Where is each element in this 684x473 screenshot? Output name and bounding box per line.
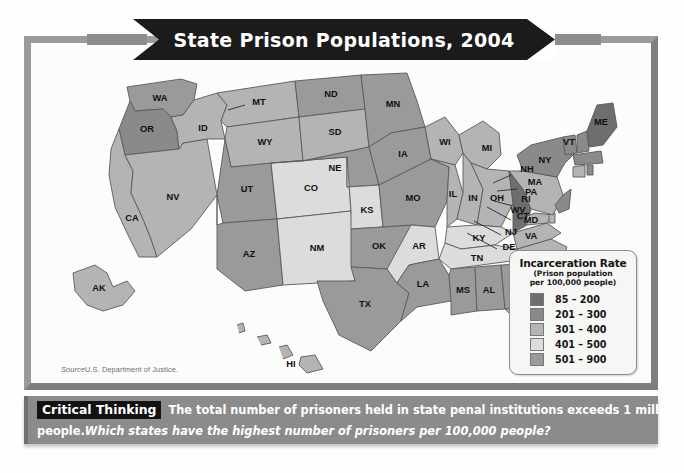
banner-tail-left: [87, 34, 147, 45]
state-label-hi: HI: [286, 359, 295, 369]
page-title: State Prison Populations, 2004: [173, 29, 514, 51]
state-label-nd: ND: [324, 89, 338, 99]
legend-label: 401 – 500: [555, 339, 607, 350]
legend-row: 301 – 400: [517, 322, 629, 337]
state-label-ny: NY: [539, 155, 553, 165]
state-label-az: AZ: [243, 249, 256, 259]
state-label-ne: NE: [329, 163, 342, 173]
source-prefix: Source: [61, 365, 85, 374]
critical-thinking-bar: Critical Thinking The total number of pr…: [24, 396, 658, 444]
state-label-oh: OH: [490, 193, 504, 203]
map-frame: WAORCANVIDMTWYUTCOAZNMNDSDNEKSOKTXMNIAMO…: [24, 36, 658, 390]
state-label-la: LA: [417, 279, 430, 289]
state-label-wy: WY: [258, 137, 274, 147]
state-label-ia: IA: [398, 149, 408, 159]
state-label-in: IN: [468, 193, 478, 203]
state-label-wi: WI: [439, 137, 450, 147]
state-label-ok: OK: [372, 241, 386, 251]
state-label-ks: KS: [361, 205, 374, 215]
state-label-va: VA: [525, 231, 538, 241]
legend-subtitle-line1: (Prison population: [517, 269, 629, 278]
state-label-or: OR: [140, 124, 154, 134]
legend-swatch: [530, 353, 544, 366]
caption-text-line2: people.: [37, 424, 85, 438]
legend-row: 401 – 500: [517, 337, 629, 352]
critical-thinking-badge: Critical Thinking: [37, 401, 161, 419]
state-label-al: AL: [483, 285, 496, 295]
state-label-ca: CA: [125, 213, 139, 223]
banner-body: State Prison Populations, 2004: [133, 19, 555, 60]
caption-line-2: people.Which states have the highest num…: [37, 421, 650, 439]
state-label-ri: RI: [521, 194, 530, 204]
legend-title: Incarceration Rate: [517, 257, 629, 269]
state-label-sd: SD: [329, 127, 342, 137]
legend-label: 301 – 400: [555, 324, 607, 335]
legend-label: 501 – 900: [555, 354, 607, 365]
caption-text-line1: The total number of prisoners held in st…: [168, 403, 678, 417]
state-label-tx: TX: [359, 299, 372, 309]
state-label-mt: MT: [252, 97, 266, 107]
legend-label: 201 – 300: [555, 309, 607, 320]
state-label-me: ME: [594, 117, 608, 127]
state-label-mo: MO: [406, 193, 421, 203]
legend-row: 201 – 300: [517, 307, 629, 322]
state-hi: [237, 323, 323, 373]
legend-swatch: [530, 293, 544, 306]
legend-swatch: [530, 338, 544, 351]
source-line: SourceU.S. Department of Justice.: [61, 365, 178, 374]
caption-line-1: Critical Thinking The total number of pr…: [37, 401, 650, 419]
map-infographic: WAORCANVIDMTWYUTCOAZNMNDSDNEKSOKTXMNIAMO…: [0, 0, 684, 473]
state-label-nv: NV: [167, 192, 181, 202]
state-label-nm: NM: [310, 243, 325, 253]
state-label-tn: TN: [471, 253, 484, 263]
state-label-co: CO: [304, 183, 318, 193]
map-canvas: WAORCANVIDMTWYUTCOAZNMNDSDNEKSOKTXMNIAMO…: [31, 43, 651, 383]
legend-label: 85 – 200: [555, 294, 600, 305]
state-label-nh: NH: [520, 164, 534, 174]
state-label-ma: MA: [528, 177, 543, 187]
state-label-il: IL: [449, 189, 458, 199]
legend-row: 501 – 900: [517, 352, 629, 367]
legend-subtitle-line2: per 100,000 people): [517, 278, 629, 287]
state-label-wa: WA: [153, 93, 168, 103]
state-label-ut: UT: [241, 184, 254, 194]
legend-swatch: [530, 308, 544, 321]
state-label-id: ID: [198, 123, 208, 133]
state-ct: [573, 165, 585, 177]
map-legend: Incarceration Rate (Prison population pe…: [509, 250, 637, 375]
state-label-nj: NJ: [505, 227, 517, 237]
caption-question: Which states have the highest number of …: [85, 424, 551, 438]
legend-swatch: [530, 323, 544, 336]
state-ri: [587, 165, 593, 175]
state-label-ct: CT: [517, 211, 530, 221]
title-banner: State Prison Populations, 2004: [133, 19, 555, 60]
state-label-mn: MN: [386, 99, 401, 109]
source-text: U.S. Department of Justice.: [85, 365, 178, 374]
legend-row: 85 – 200: [517, 292, 629, 307]
state-label-ms: MS: [456, 285, 470, 295]
state-label-ky: KY: [473, 233, 487, 243]
state-label-mi: MI: [482, 143, 492, 153]
state-label-vt: VT: [563, 137, 575, 147]
state-label-ak: AK: [92, 283, 106, 293]
state-label-ar: AR: [412, 241, 426, 251]
legend-rows: 85 – 200201 – 300301 – 400401 – 500501 –…: [517, 292, 629, 367]
